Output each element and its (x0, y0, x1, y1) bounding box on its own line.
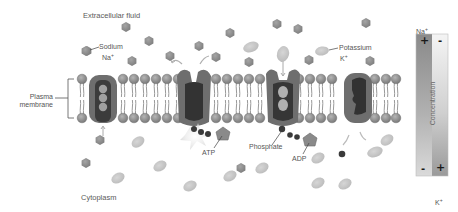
sodium-label: Sodium Na+ (99, 43, 123, 62)
sodium-low-sign: - (421, 164, 425, 174)
diagram-canvas (0, 0, 458, 212)
sodium-symbol-text: Na (102, 54, 111, 61)
sodium-symbol: Na+ (102, 51, 123, 62)
potassium-low-sign: - (438, 36, 442, 46)
potassium-name: Potassium (339, 44, 372, 52)
cytoplasm-label: Cytoplasm (81, 194, 116, 202)
atp-label: ATP (202, 149, 215, 157)
sodium-high-sign: + (420, 36, 429, 46)
plasma-membrane-label-line2: membrane (19, 101, 53, 109)
membrane-bracket (55, 79, 74, 118)
potassium-pointer (329, 48, 338, 50)
gradient-top-charge: + (425, 26, 428, 32)
phosphate-label: Phosphate (249, 143, 282, 151)
adp-molecule (287, 132, 317, 154)
pump-protein-state-1 (89, 75, 117, 136)
plasma-membrane-label-line1: Plasma (25, 93, 53, 101)
released-phosphate (339, 151, 346, 158)
potassium-symbol: K+ (340, 52, 372, 63)
pump-protein-state-4 (343, 73, 372, 145)
extracellular-fluid-label: Extracellular fluid (83, 12, 140, 20)
sodium-potassium-pump-diagram: Extracellular fluid Cytoplasm Plasma mem… (0, 0, 458, 212)
plasma-membrane-label: Plasma membrane (25, 93, 53, 109)
sodium-charge: + (111, 52, 114, 58)
concentration-axis-label: Concentration (429, 82, 436, 126)
adp-label: ADP (292, 155, 306, 163)
sodium-name: Sodium (99, 43, 123, 51)
gradient-bottom-charge: + (440, 197, 443, 203)
gradient-bottom-label: K+ (435, 196, 443, 207)
potassium-label: Potassium K+ (339, 44, 372, 63)
potassium-charge: + (345, 53, 348, 59)
pump-protein-state-3 (266, 58, 300, 145)
potassium-high-sign: + (436, 163, 445, 173)
